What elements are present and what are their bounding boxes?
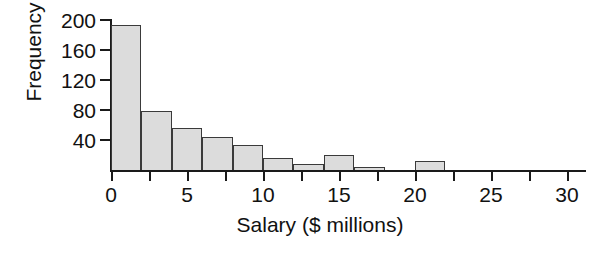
histogram-bar — [141, 111, 171, 171]
histogram-bar — [324, 155, 354, 172]
x-tick-mark-27p5 — [529, 172, 531, 181]
y-tick-label-200: 200 — [40, 10, 96, 31]
y-tick-label-120: 120 — [40, 70, 96, 91]
x-tick-mark-17p5 — [377, 172, 379, 181]
x-axis-spine — [110, 170, 586, 172]
histogram-bar — [263, 158, 293, 172]
x-tick-mark-15 — [339, 172, 341, 181]
x-tick-mark-22p5 — [453, 172, 455, 181]
y-tick-label-40: 40 — [40, 130, 96, 151]
x-tick-label-5: 5 — [167, 184, 207, 205]
histogram-bar — [202, 137, 232, 171]
x-tick-mark-12p5 — [301, 172, 303, 181]
histogram-chart: Frequency 200 160 120 80 40 0 5 10 15 20… — [0, 0, 608, 254]
x-tick-mark-0 — [111, 172, 113, 181]
y-tick-label-160: 160 — [40, 40, 96, 61]
x-tick-mark-25 — [491, 172, 493, 181]
x-tick-label-25: 25 — [471, 184, 511, 205]
histogram-bar — [233, 145, 263, 171]
x-tick-mark-10 — [263, 172, 265, 181]
x-tick-mark-30 — [567, 172, 569, 181]
x-tick-label-15: 15 — [319, 184, 359, 205]
x-tick-mark-2p5 — [149, 172, 151, 181]
x-tick-mark-20 — [415, 172, 417, 181]
y-tick-label-80: 80 — [40, 100, 96, 121]
x-tick-label-10: 10 — [243, 184, 283, 205]
histogram-bar — [172, 128, 202, 171]
histogram-bar — [111, 25, 141, 171]
x-tick-mark-5 — [187, 172, 189, 181]
x-axis-title: Salary ($ millions) — [170, 213, 470, 237]
x-tick-label-30: 30 — [547, 184, 587, 205]
x-tick-label-20: 20 — [395, 184, 435, 205]
x-tick-label-0: 0 — [91, 184, 131, 205]
x-tick-mark-7p5 — [225, 172, 227, 181]
